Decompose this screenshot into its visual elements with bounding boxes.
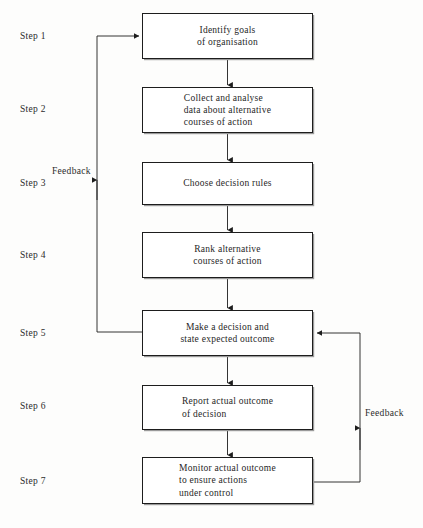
feedback-left-path bbox=[97, 36, 142, 332]
step-label-1: Step 1 bbox=[20, 31, 46, 41]
process-box-rank-alternative-courses[interactable]: Rank alternative courses of action bbox=[142, 232, 313, 278]
flowchart-canvas: Step 1 Identify goals of organisation St… bbox=[0, 0, 423, 528]
feedback-label-left: Feedback bbox=[52, 166, 91, 176]
process-box-text: Report actual outcome of decision bbox=[182, 395, 273, 419]
process-box-text: Rank alternative courses of action bbox=[193, 243, 262, 267]
step-label-7: Step 7 bbox=[20, 476, 46, 486]
step-label-2: Step 2 bbox=[20, 104, 46, 114]
process-box-identify-goals[interactable]: Identify goals of organisation bbox=[142, 13, 313, 59]
process-box-choose-decision-rules[interactable]: Choose decision rules bbox=[142, 162, 313, 205]
process-box-text: Monitor actual outcome to ensure actions… bbox=[179, 462, 276, 499]
process-box-make-a-decision[interactable]: Make a decision and state expected outco… bbox=[142, 310, 313, 356]
feedback-label-right: Feedback bbox=[365, 408, 404, 418]
process-box-text: Make a decision and state expected outco… bbox=[180, 321, 274, 345]
step-label-5: Step 5 bbox=[20, 328, 46, 338]
feedback-right-path bbox=[313, 333, 360, 482]
step-label-4: Step 4 bbox=[20, 250, 46, 260]
step-label-3: Step 3 bbox=[20, 178, 46, 188]
process-box-text: Choose decision rules bbox=[183, 177, 272, 189]
step-label-6: Step 6 bbox=[20, 401, 46, 411]
process-box-text: Identify goals of organisation bbox=[197, 24, 258, 48]
process-box-text: Collect and analyse data about alternati… bbox=[184, 92, 271, 129]
process-box-report-actual-outcome[interactable]: Report actual outcome of decision bbox=[142, 385, 313, 430]
process-box-collect-analyse-data[interactable]: Collect and analyse data about alternati… bbox=[142, 87, 313, 133]
process-box-monitor-actual-outcome[interactable]: Monitor actual outcome to ensure actions… bbox=[142, 457, 313, 504]
